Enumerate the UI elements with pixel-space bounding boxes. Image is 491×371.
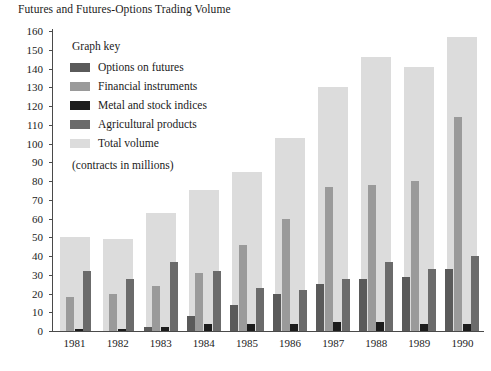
bar-group — [312, 31, 355, 331]
bar-agricultural-products — [213, 271, 221, 331]
bar-metal-and-stock-indices — [376, 322, 384, 331]
y-axis-labels: 0102030405060708090100110120130140150160 — [0, 0, 53, 371]
bar-financial-instruments — [368, 185, 376, 331]
bar-financial-instruments — [411, 181, 419, 331]
legend-item-label: Financial instruments — [98, 80, 197, 92]
bar-financial-instruments — [325, 187, 333, 331]
x-axis-tick-label: 1985 — [225, 337, 268, 349]
bar-group — [398, 31, 441, 331]
legend-rows: Options on futuresFinancial instrumentsM… — [70, 61, 285, 149]
legend-swatch-icon — [70, 120, 90, 129]
bar-agricultural-products — [428, 269, 436, 331]
legend-item-label: Agricultural products — [98, 118, 197, 130]
x-axis-tick-label: 1984 — [182, 337, 225, 349]
bar-metal-and-stock-indices — [420, 324, 428, 332]
bar-agricultural-products — [299, 290, 307, 331]
bar-agricultural-products — [471, 256, 479, 331]
legend-item-label: Options on futures — [98, 61, 184, 73]
legend-item: Options on futures — [70, 61, 285, 73]
bar-agricultural-products — [170, 262, 178, 331]
y-axis-tick-label: 40 — [32, 250, 43, 262]
y-axis-tick-label: 70 — [32, 194, 43, 206]
chart-root: Futures and Futures-Options Trading Volu… — [0, 0, 491, 371]
x-axis-tick-label: 1989 — [398, 337, 441, 349]
y-axis-tick-label: 100 — [27, 138, 44, 150]
bar-financial-instruments — [109, 294, 117, 332]
legend-item: Financial instruments — [70, 80, 285, 92]
bar-options-on-futures — [445, 269, 453, 331]
legend-note: (contracts in millions) — [72, 159, 285, 171]
x-axis-line — [52, 331, 484, 332]
x-axis-tick-label: 1986 — [269, 337, 312, 349]
bar-options-on-futures — [230, 305, 238, 331]
bar-metal-and-stock-indices — [75, 329, 83, 331]
legend-item: Total volume — [70, 137, 285, 149]
bar-agricultural-products — [83, 271, 91, 331]
bar-financial-instruments — [282, 219, 290, 332]
bar-group — [441, 31, 484, 331]
bar-options-on-futures — [359, 279, 367, 332]
y-axis-tick-label: 140 — [27, 63, 44, 75]
y-axis-tick-label: 120 — [27, 100, 44, 112]
legend-item-label: Total volume — [98, 137, 159, 149]
legend-title: Graph key — [72, 40, 285, 52]
x-axis-tick-label: 1981 — [53, 337, 96, 349]
chart-legend: Graph key Options on futuresFinancial in… — [70, 40, 285, 171]
y-axis-tick-label: 90 — [32, 156, 43, 168]
bar-metal-and-stock-indices — [118, 329, 126, 331]
bar-options-on-futures — [187, 316, 195, 331]
bar-options-on-futures — [402, 277, 410, 331]
x-axis-tick-label: 1982 — [96, 337, 139, 349]
bar-metal-and-stock-indices — [463, 324, 471, 332]
bar-agricultural-products — [126, 279, 134, 332]
legend-item: Agricultural products — [70, 118, 285, 130]
bar-metal-and-stock-indices — [247, 324, 255, 332]
bar-financial-instruments — [152, 286, 160, 331]
x-axis-tick-label: 1988 — [355, 337, 398, 349]
legend-item: Metal and stock indices — [70, 99, 285, 111]
y-axis-tick-label: 50 — [32, 231, 43, 243]
x-axis-tick-label: 1987 — [312, 337, 355, 349]
y-axis-tick-label: 60 — [32, 213, 43, 225]
bar-group — [355, 31, 398, 331]
y-axis-tick-label: 110 — [27, 119, 43, 131]
bar-metal-and-stock-indices — [204, 324, 212, 332]
y-axis-tick-label: 20 — [32, 288, 43, 300]
x-axis-tick-label: 1983 — [139, 337, 182, 349]
y-axis-tick-label: 160 — [27, 25, 44, 37]
bar-metal-and-stock-indices — [161, 327, 169, 331]
y-axis-tick-label: 30 — [32, 269, 43, 281]
y-axis-tick-label: 80 — [32, 175, 43, 187]
legend-swatch-icon — [70, 63, 90, 72]
bar-metal-and-stock-indices — [290, 324, 298, 332]
y-axis-tick-label: 0 — [38, 325, 44, 337]
legend-item-label: Metal and stock indices — [98, 99, 207, 111]
legend-swatch-icon — [70, 101, 90, 110]
bar-agricultural-products — [256, 288, 264, 331]
legend-swatch-icon — [70, 82, 90, 91]
bar-financial-instruments — [454, 117, 462, 331]
bar-financial-instruments — [195, 273, 203, 331]
bar-options-on-futures — [316, 284, 324, 331]
bar-agricultural-products — [385, 262, 393, 331]
y-axis-tick-label: 150 — [27, 44, 44, 56]
legend-swatch-icon — [70, 139, 90, 148]
bar-agricultural-products — [342, 279, 350, 332]
bar-metal-and-stock-indices — [333, 322, 341, 331]
bar-financial-instruments — [239, 245, 247, 331]
y-axis-tick-label: 10 — [32, 306, 43, 318]
bar-options-on-futures — [273, 294, 281, 332]
bar-financial-instruments — [66, 297, 74, 331]
y-axis-tick-label: 130 — [27, 81, 44, 93]
bar-options-on-futures — [144, 327, 152, 331]
x-axis-tick-label: 1990 — [441, 337, 484, 349]
